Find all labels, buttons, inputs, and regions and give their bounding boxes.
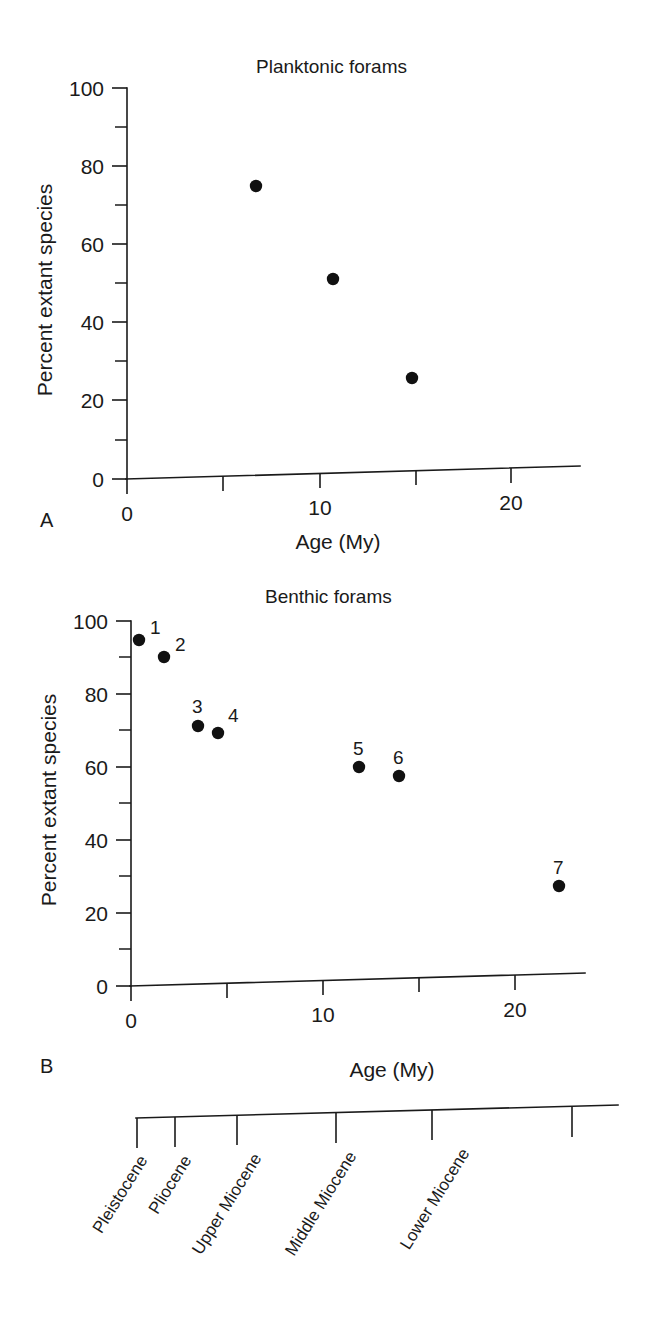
panel-a-x-axis xyxy=(126,466,580,479)
panel-b: Benthic forams 100 80 60 xyxy=(37,586,585,1081)
data-point xyxy=(327,273,339,285)
panel-b-ylabel: Percent extant species xyxy=(37,694,60,906)
data-point xyxy=(133,634,145,646)
data-point-label: 6 xyxy=(393,747,404,768)
data-point-label: 5 xyxy=(353,738,364,759)
panel-b-ytick-40: 40 xyxy=(85,829,108,852)
data-point xyxy=(353,761,365,773)
panel-a-xtick-0: 0 xyxy=(121,502,133,525)
panel-a-title: Planktonic forams xyxy=(256,56,407,77)
data-point xyxy=(393,770,405,782)
panel-b-data-points: 1 2 3 4 5 6 7 xyxy=(133,617,565,892)
scientific-figure: Planktonic forams 100 80 xyxy=(0,0,647,1333)
figure-canvas: Planktonic forams 100 80 xyxy=(0,0,647,1333)
data-point-label: 4 xyxy=(228,705,239,726)
panel-b-ytick-20: 20 xyxy=(85,902,108,925)
panel-a-ytick-60: 60 xyxy=(81,233,104,256)
panel-a-ytick-80: 80 xyxy=(81,155,104,178)
panel-a-ytick-100: 100 xyxy=(69,77,104,100)
panel-a-xtick-20: 20 xyxy=(499,491,522,514)
panel-b-xtick-20: 20 xyxy=(503,998,526,1021)
panel-b-xtick-0: 0 xyxy=(125,1009,137,1032)
epoch-label-lower-miocene: Lower Miocene xyxy=(396,1145,473,1253)
data-point xyxy=(250,180,262,192)
panel-a-ylabel: Percent extant species xyxy=(33,184,56,396)
data-point-label: 1 xyxy=(150,617,161,638)
panel-a-data-points xyxy=(250,180,418,384)
epoch-label-pleistocene: Pleistocene xyxy=(89,1152,152,1237)
panel-a-ytick-0: 0 xyxy=(92,468,104,491)
timescale-axis xyxy=(136,1105,618,1118)
panel-a-ytick-20: 20 xyxy=(81,389,104,412)
panel-a-ytick-40: 40 xyxy=(81,311,104,334)
geologic-timescale: Pleistocene Pliocene Upper Miocene Middl… xyxy=(89,1105,618,1259)
epoch-label-upper-miocene: Upper Miocene xyxy=(188,1150,265,1258)
data-point xyxy=(553,880,565,892)
epoch-label-pliocene: Pliocene xyxy=(145,1152,196,1217)
panel-a-label: A xyxy=(40,509,54,531)
panel-a-y-ticks xyxy=(112,88,127,479)
panel-b-x-ticks xyxy=(131,975,515,1001)
data-point xyxy=(192,720,204,732)
panel-b-title: Benthic forams xyxy=(265,586,392,607)
data-point-label: 2 xyxy=(175,634,186,655)
panel-a-x-ticks xyxy=(127,468,511,494)
data-point-label: 7 xyxy=(553,857,564,878)
panel-b-xtick-10: 10 xyxy=(311,1003,334,1026)
panel-b-x-axis xyxy=(130,973,585,986)
epoch-label-middle-miocene: Middle Miocene xyxy=(281,1148,360,1259)
data-point xyxy=(406,372,418,384)
data-point xyxy=(158,651,170,663)
panel-b-label: B xyxy=(40,1055,53,1077)
panel-a: Planktonic forams 100 80 xyxy=(33,56,580,553)
data-point xyxy=(212,727,224,739)
panel-b-ytick-0: 0 xyxy=(96,975,108,998)
panel-a-xtick-10: 10 xyxy=(308,496,331,519)
panel-b-ytick-100: 100 xyxy=(73,610,108,633)
panel-b-y-ticks xyxy=(116,621,131,986)
panel-a-xlabel: Age (My) xyxy=(295,530,380,553)
timescale-boundary-ticks xyxy=(137,1107,572,1148)
panel-b-ytick-60: 60 xyxy=(85,756,108,779)
panel-b-xlabel: Age (My) xyxy=(349,1058,434,1081)
panel-b-ytick-80: 80 xyxy=(85,683,108,706)
data-point-label: 3 xyxy=(192,696,203,717)
